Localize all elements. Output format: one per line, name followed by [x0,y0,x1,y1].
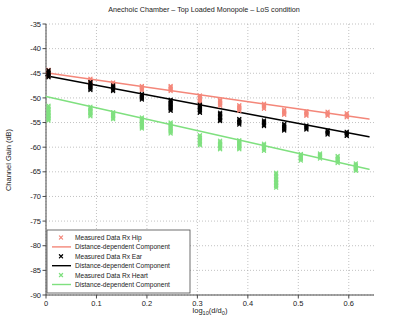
x-tick-label: 0.1 [91,299,101,308]
legend-item-label: Distance-dependent Component [75,281,170,289]
y-tick-label: -65 [30,167,41,176]
y-tick-label: -55 [30,118,41,127]
y-tick-label: -85 [30,266,41,275]
legend-item-label: Measured Data Rx Heart [75,272,148,279]
y-tick-label: -90 [30,291,41,300]
y-tick-label: -80 [30,241,41,250]
y-axis-title: Channel Gain (dB) [4,128,13,191]
y-tick-label: -75 [30,217,41,226]
y-tick-label: -40 [30,44,41,53]
channel-gain-scatter-chart: -35-40-45-50-55-60-65-70-75-80-85-9000.1… [0,0,401,317]
chart-title: Anechoic Chamber – Top Loaded Monopole –… [108,5,300,14]
legend-item-label: Measured Data Rx Ear [75,253,143,260]
legend-item-label: Distance-dependent Component [75,243,170,251]
x-tick-label: 0.5 [293,299,303,308]
x-tick-label: 0.2 [142,299,152,308]
y-tick-label: -50 [30,94,41,103]
x-tick-label: 0 [44,299,48,308]
x-tick-label: 0.6 [344,299,354,308]
y-tick-label: -35 [30,20,41,29]
figure-container: -35-40-45-50-55-60-65-70-75-80-85-9000.1… [0,0,401,317]
legend-item-label: Distance-dependent Component [75,262,170,270]
chart-legend[interactable]: Measured Data Rx HipDistance-dependent C… [47,230,190,293]
x-tick-label: 0.4 [243,299,253,308]
y-tick-label: -60 [30,143,41,152]
legend-item-label: Measured Data Rx Hip [75,234,142,242]
y-tick-label: -70 [30,192,41,201]
y-tick-label: -45 [30,69,41,78]
